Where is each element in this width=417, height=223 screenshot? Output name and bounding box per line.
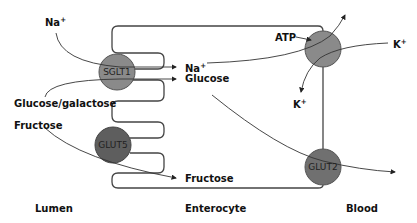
k-cell-label: K+	[293, 96, 307, 111]
na-lumen-label: Na+	[45, 14, 66, 29]
enterocyte-region-label: Enterocyte	[185, 203, 246, 215]
atp-label: ATP	[275, 32, 296, 44]
intestinal-sugar-absorption-diagram: SGLT1 GLUT5 GLUT2 Na+ Na+ Glucose/galact…	[0, 0, 417, 223]
fructose-lumen-label: Fructose	[14, 120, 63, 132]
enterocyte-membrane	[112, 26, 318, 188]
glut2-label: GLUT2	[308, 162, 337, 172]
glucose-cell-label: Glucose	[185, 73, 229, 85]
glucose-galactose-label: Glucose/galactose	[14, 98, 116, 110]
lumen-region-label: Lumen	[35, 203, 73, 215]
glut5-label: GLUT5	[98, 140, 127, 150]
sglt1-label: SGLT1	[103, 67, 131, 77]
diagram-graphics	[0, 0, 417, 223]
fructose-cell-label: Fructose	[185, 173, 234, 185]
blood-region-label: Blood	[346, 203, 378, 215]
na-k-atpase-pump	[305, 31, 341, 67]
k-blood-label: K+	[393, 36, 407, 51]
